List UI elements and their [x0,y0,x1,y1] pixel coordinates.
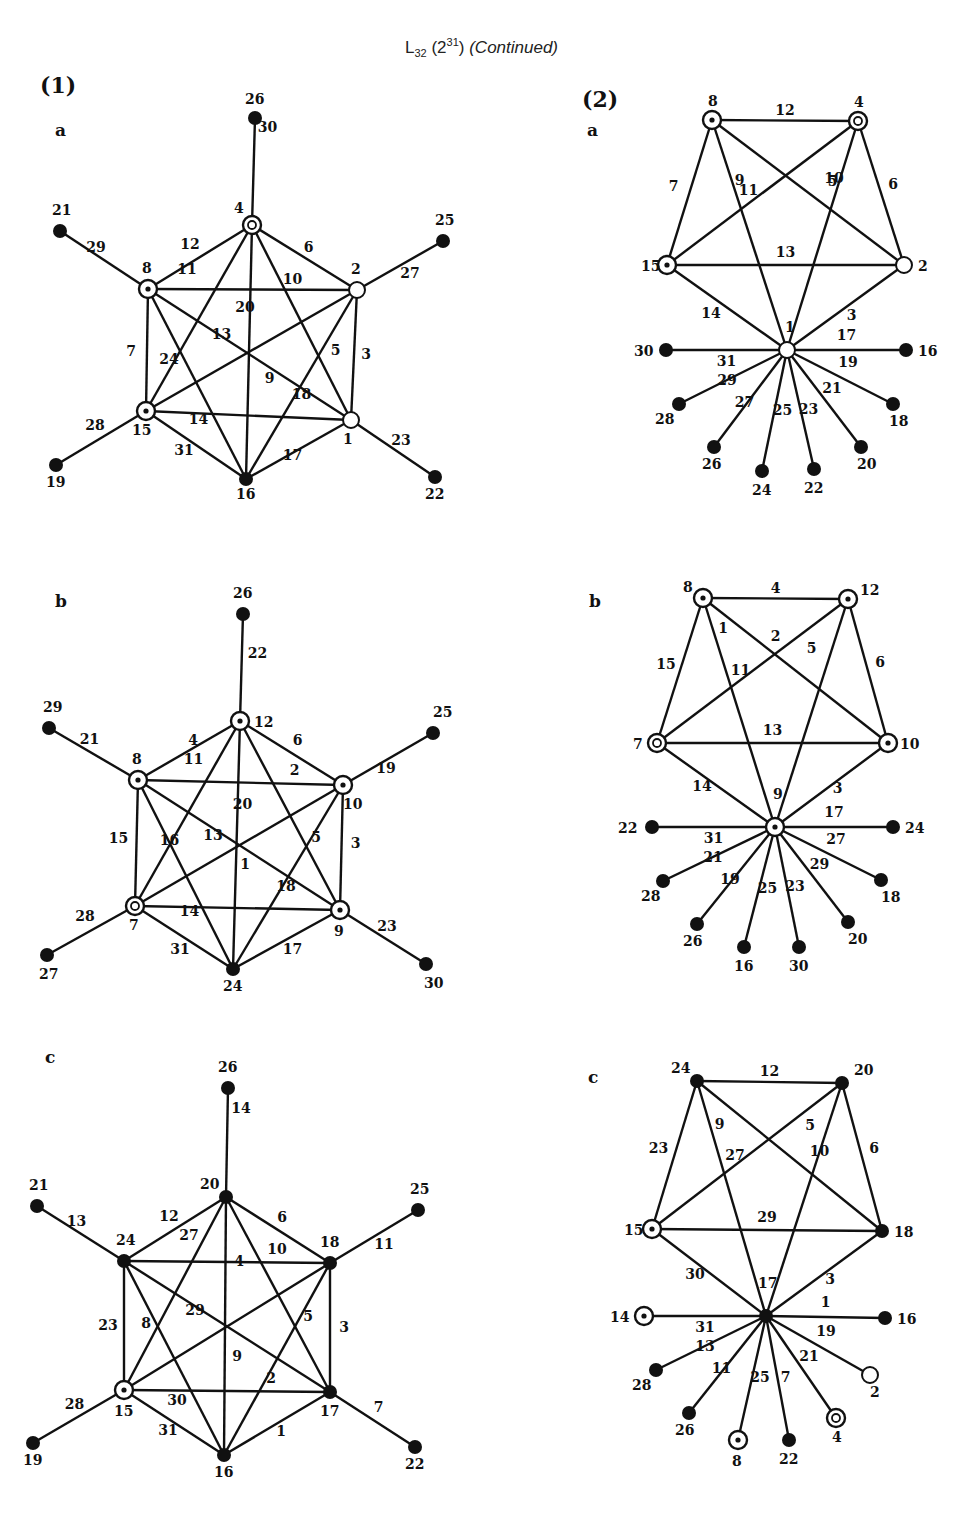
node-26: 26 [245,91,264,125]
edge-label: 15 [656,656,675,672]
node-28: 28 [632,1363,663,1393]
filled-node-icon [53,224,67,238]
node-24: 24 [886,820,925,836]
edge-label: 29 [810,856,829,872]
node-14: 14 [610,1307,653,1325]
edge-label: 1 [718,620,728,636]
node-29: 29 [42,699,62,735]
open-node-icon [896,257,912,273]
edge-label: 6 [888,176,898,192]
node-2: 2 [862,1367,880,1400]
graph-sublabel: c [45,1047,55,1067]
node-4: 4 [234,200,261,234]
edge-label: 11 [374,1236,393,1252]
edge-label: 19 [720,871,739,887]
edge-6 [858,121,904,265]
graph-sublabel: a [587,120,598,140]
edge-label: 25 [758,880,777,896]
filled-node-icon [117,1254,131,1268]
node-22: 22 [618,820,659,836]
edge-label: 22 [248,645,267,661]
node-8: 8 [139,260,157,298]
edge-label: 14 [692,778,712,794]
node-18: 18 [320,1234,339,1270]
filled-node-icon [221,1081,235,1095]
filled-node-icon [419,957,433,971]
edge-label: 15 [109,830,128,846]
open-node-icon [343,412,359,428]
edge-label: 1 [240,856,250,872]
edge-label: 16 [160,832,179,848]
node-24: 24 [671,1060,704,1088]
filled-node-icon [42,721,56,735]
edge-14 [226,1088,228,1197]
node-label: 18 [889,413,908,429]
node-label: 26 [233,585,252,601]
node-label: 1 [785,319,795,335]
edge-30 [652,1229,766,1316]
node-16: 16 [899,343,937,359]
edge-label: 21 [80,731,99,747]
edge-label: 19 [838,354,857,370]
edge-label: 30 [167,1392,187,1408]
filled-node-icon [759,1309,773,1323]
node-label: 25 [410,1181,429,1197]
node-label: 24 [116,1232,136,1248]
node-label: 10 [900,736,920,752]
node-label: 24 [671,1060,691,1076]
node-7: 7 [633,734,666,752]
node-label: 2 [918,258,928,274]
node-15: 15 [624,1220,661,1238]
edge-14 [135,906,340,910]
edge-label: 29 [757,1209,776,1225]
node-label: 20 [857,456,877,472]
edge-label: 2 [266,1370,276,1386]
node-label: 8 [708,93,718,109]
node-9: 9 [331,901,349,939]
node-19: 19 [23,1436,42,1468]
edge-17 [233,910,340,969]
node-label: 20 [848,931,868,947]
node-12: 12 [839,582,879,608]
graph-sublabel: a [55,120,66,140]
node-10: 10 [879,734,920,752]
edge-12 [124,1197,226,1261]
node-19: 19 [46,458,65,490]
node-24: 24 [752,464,772,498]
edge-12 [697,1081,842,1083]
node-label: 18 [881,889,900,905]
edges: 2221192823462153143117112051161318 [47,614,433,969]
node-label: 12 [860,582,879,598]
edge-2 [138,780,343,785]
edge-label: 20 [235,299,255,315]
node-label: 15 [132,422,151,438]
node-label: 19 [23,1452,42,1468]
node-8: 8 [683,579,712,607]
edges: 122362995102730331113112572119 [644,1063,885,1440]
edge-label: 13 [212,326,231,342]
node-26: 26 [218,1059,237,1095]
edge-label: 11 [712,1360,731,1376]
edge-label: 23 [649,1140,668,1156]
filled-node-icon [649,1363,663,1377]
node-16: 16 [214,1448,233,1480]
filled-node-icon [690,1074,704,1088]
edge-label: 6 [875,654,885,670]
node-label: 15 [624,1222,643,1238]
node-label: 28 [632,1377,651,1393]
edge-label: 7 [374,1399,384,1415]
graph-sublabel: b [55,591,67,611]
node-21: 21 [29,1177,48,1213]
edge-label: 1 [821,1294,831,1310]
edge-label: 13 [695,1338,714,1354]
node-15: 15 [641,256,676,274]
node-26: 26 [675,1406,696,1438]
filled-node-icon [792,940,806,954]
edge-10 [124,1261,330,1263]
edge-label: 21 [799,1348,818,1364]
graph-1b: b222119282346215314311711205116131812810… [39,585,452,994]
edge-14 [667,265,787,350]
edge-label: 14 [180,903,200,919]
edge-label: 13 [203,827,222,843]
edge-4 [703,598,848,599]
